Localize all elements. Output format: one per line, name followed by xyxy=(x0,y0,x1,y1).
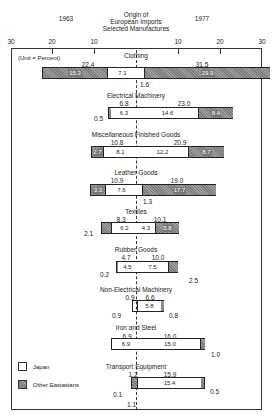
category-label-transport-equipment: Transport Equipment xyxy=(106,363,166,370)
callout-other-1963-non-electrical: 0.9 xyxy=(112,312,121,319)
axis-tick-left-20: 20 xyxy=(48,38,55,45)
total-1977-misc: 20.9 xyxy=(174,139,187,146)
bar-textiles: 6.2 4.3 5.8 xyxy=(101,222,179,234)
segment-other-1977 xyxy=(201,378,204,388)
tick-mark xyxy=(220,48,221,54)
callout-other-1963-transport: 0.1 xyxy=(113,391,122,398)
total-1963-leather: 10.9 xyxy=(111,177,124,184)
segment-other-1977: 8.7 xyxy=(188,147,224,157)
segment-japan-1963: 6.9 xyxy=(112,339,140,349)
value-label: 7.6 xyxy=(117,187,125,194)
segment-other-1977: 5.8 xyxy=(155,223,179,233)
callout-other-1963-textiles: 2.1 xyxy=(84,230,93,237)
bar-iron-and-steel: 6.9 15.0 xyxy=(111,338,205,350)
axis-tick-left-30: 30 xyxy=(7,38,14,45)
category-label-clothing: Clothing xyxy=(124,52,148,59)
callout-other-1977-transport: 0.5 xyxy=(210,388,219,395)
category-label-misc-finished-goods: Miscellaneous Finished Goods xyxy=(92,131,181,138)
legend-label-other-eastasians: Other Eastasians xyxy=(33,382,79,389)
value-label: 8.4 xyxy=(211,110,221,117)
axis-tick-right-10: 10 xyxy=(174,38,181,45)
value-label: 3.3 xyxy=(93,187,103,194)
segment-japan-1963: 6.2 xyxy=(111,223,137,233)
callout-japan-1977-clothing: 1.6 xyxy=(140,81,149,88)
legend-label-japan: Japan xyxy=(33,364,49,371)
total-1963-misc: 10.8 xyxy=(111,139,124,146)
segment-other-1977: 17.7 xyxy=(142,185,216,195)
total-1977-rubber: 10.0 xyxy=(152,254,165,261)
segment-japan-1977 xyxy=(137,68,144,78)
value-label: 15.0 xyxy=(164,341,176,348)
segment-japan-1963: 8.1 xyxy=(103,147,137,157)
tick-mark xyxy=(178,48,179,54)
value-label: 7.1 xyxy=(118,70,126,77)
value-label: 5.8 xyxy=(162,225,172,232)
left-year-label: 1963 xyxy=(59,15,73,22)
axis-tick-right-20: 20 xyxy=(216,38,223,45)
bar-leather-goods: 3.3 7.6 17.7 xyxy=(90,184,216,196)
value-label: 2.7 xyxy=(92,149,102,156)
segment-other-1977: 8.4 xyxy=(198,108,233,118)
segment-other-1977 xyxy=(168,262,178,272)
value-label: 12.2 xyxy=(157,149,169,156)
callout-other-1977-non-electrical: 0.8 xyxy=(169,312,178,319)
value-label: 7.5 xyxy=(148,264,156,271)
callout-japan-1977-leather: 1.3 xyxy=(143,198,152,205)
segment-japan-1977: 7.5 xyxy=(137,262,168,272)
value-label: 15.4 xyxy=(164,380,176,387)
value-label: 4.5 xyxy=(123,264,131,271)
chart-title-line-2: European Imports xyxy=(110,18,162,25)
chart-title-line-3: Selected Manufactures xyxy=(103,25,169,32)
segment-japan-1963: 7.1 xyxy=(107,68,137,78)
value-label: 6.2 xyxy=(120,225,128,232)
segment-other-1977 xyxy=(161,301,164,311)
value-label: 6.9 xyxy=(122,341,130,348)
unit-label: (Unit = Percent) xyxy=(18,55,60,62)
value-label: 6.3 xyxy=(120,110,128,117)
value-label: 5.8 xyxy=(145,303,153,310)
segment-japan-1977: 4.3 xyxy=(137,223,155,233)
bar-non-electrical-machinery: 5.8 xyxy=(132,300,164,312)
segment-japan-1977: 5.8 xyxy=(137,301,161,311)
bar-misc-finished-goods: 2.7 8.1 12.2 8.7 xyxy=(91,146,224,158)
value-label: 14.6 xyxy=(162,110,174,117)
tick-mark xyxy=(52,48,53,54)
callout-japan-1963-transport: 1.1 xyxy=(127,401,136,408)
segment-other-1963 xyxy=(102,223,111,233)
segment-japan-1977: 14.6 xyxy=(137,108,198,118)
category-label-electrical-machinery: Electrical Machinery xyxy=(107,92,165,99)
segment-japan-1963: 6.3 xyxy=(111,108,137,118)
segment-other-1963: 3.3 xyxy=(91,185,105,195)
axis-tick-left-10: 10 xyxy=(90,38,97,45)
value-label: 4.3 xyxy=(142,225,150,232)
axis-tick-right-30: 30 xyxy=(258,38,265,45)
segment-japan-1963: 4.5 xyxy=(118,262,137,272)
total-1963-rubber: 4.7 xyxy=(121,254,130,261)
value-label: 8.1 xyxy=(116,149,124,156)
segment-other-1977 xyxy=(200,339,205,349)
value-label: 15.3 xyxy=(68,70,82,77)
category-label-iron-and-steel: Iron and Steel xyxy=(116,324,156,331)
segment-other-1977: 29.9 xyxy=(144,68,270,78)
callout-other-1963-electrical: 0.5 xyxy=(94,115,103,122)
callout-other-1977-iron-steel: 1.0 xyxy=(211,351,220,358)
segment-japan-1977: 15.4 xyxy=(137,378,201,388)
bar-rubber-goods: 4.5 7.5 xyxy=(116,261,178,273)
total-1977-electrical: 23.0 xyxy=(178,100,191,107)
category-label-non-electrical-machinery: Non-Electrical Machinery xyxy=(100,286,172,293)
segment-japan-1977: 15.0 xyxy=(140,339,200,349)
segment-japan-1963: 7.6 xyxy=(105,185,137,195)
segment-japan-1977: 12.2 xyxy=(137,147,188,157)
value-label: 29.9 xyxy=(201,70,215,77)
segment-other-1963: 15.3 xyxy=(43,68,107,78)
tick-mark xyxy=(94,48,95,54)
segment-other-1963: 2.7 xyxy=(92,147,103,157)
right-year-label: 1977 xyxy=(195,15,209,22)
segment-other-1963 xyxy=(133,301,136,311)
total-1977-leather: 19.0 xyxy=(171,177,184,184)
category-label-leather-goods: Leather Goods xyxy=(114,169,157,176)
legend-swatch-other-eastasians xyxy=(18,380,27,389)
chart-title-line-1: Origin of xyxy=(124,11,149,18)
legend-swatch-japan xyxy=(18,362,27,371)
bar-electrical-machinery: 6.3 14.6 8.4 xyxy=(108,107,233,119)
